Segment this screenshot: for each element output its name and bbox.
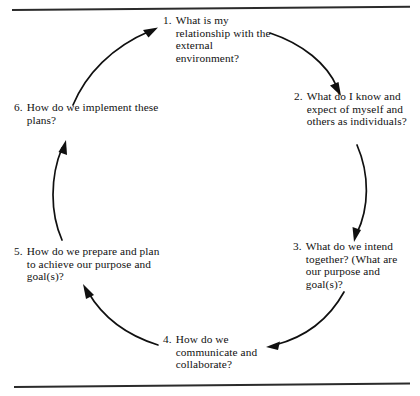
- cycle-step-4-number: 4.: [163, 333, 176, 346]
- arrow-head-4-to-5: [83, 284, 94, 299]
- cycle-step-1-number: 1.: [163, 14, 176, 27]
- cycle-step-2-number: 2.: [294, 90, 307, 103]
- cycle-step-4-text: How do we communicate and collaborate?: [176, 333, 273, 371]
- arrow-head-6-to-1: [143, 28, 158, 38]
- cycle-step-2: 2. What do I know and expect of myself a…: [294, 90, 412, 128]
- cycle-step-5: 5. How do we prepare and plan to achieve…: [14, 245, 164, 283]
- arrow-4-to-5: [83, 284, 158, 345]
- cycle-step-5-text: How do we prepare and plan to achieve ou…: [27, 245, 164, 283]
- cycle-step-3-text: What do we intend together? (What are ou…: [306, 240, 415, 290]
- cycle-step-6-text: How do we implement these plans?: [27, 101, 164, 126]
- cycle-step-1: 1. What is my relationship with the exte…: [163, 14, 271, 64]
- cycle-step-5-number: 5.: [14, 245, 27, 258]
- arrow-6-to-1: [73, 28, 158, 106]
- cycle-step-4: 4. How do we communicate and collaborate…: [163, 333, 273, 371]
- cycle-step-3-number: 3.: [293, 240, 306, 253]
- cycle-step-6-number: 6.: [14, 101, 27, 114]
- cycle-step-2-text: What do I know and expect of myself and …: [307, 90, 412, 128]
- cycle-step-6: 6. How do we implement these plans?: [14, 101, 164, 126]
- arrow-2-to-3: [353, 145, 367, 242]
- cycle-diagram-page: 1. What is my relationship with the exte…: [0, 0, 420, 396]
- cycle-step-3: 3. What do we intend together? (What are…: [293, 240, 415, 290]
- arrow-1-to-2: [270, 33, 341, 96]
- arrow-5-to-6: [53, 140, 67, 240]
- cycle-step-1-text: What is my relationship with the externa…: [176, 14, 271, 64]
- arrow-3-to-4: [266, 292, 344, 350]
